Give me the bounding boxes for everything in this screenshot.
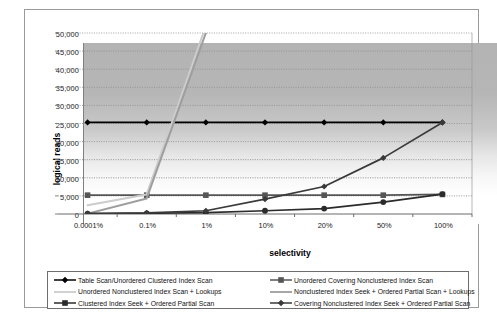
x-axis-title: selectivity: [83, 248, 497, 258]
legend-item-label: Unordered Nonclustered Index Scan + Look…: [78, 288, 221, 295]
legend-item[interactable]: Covering Nonclustered Index Seek + Order…: [266, 298, 470, 308]
y-axis-tick-label: 40,000: [56, 66, 79, 75]
legend-item[interactable]: Unordered Nonclustered Index Scan + Look…: [50, 287, 221, 297]
legend-row: Clustered Index Seek + Ordered Partial S…: [48, 298, 468, 310]
legend-key-icon: [270, 275, 292, 285]
x-axis-tick-label: 0.1%: [139, 221, 156, 230]
y-axis-tick-label: 0: [75, 211, 79, 220]
y-axis-tick-label: 5,000: [60, 192, 79, 201]
legend-key-icon: [54, 298, 76, 308]
legend-item-label: Clustered Index Seek + Ordered Partial S…: [78, 300, 214, 307]
y-axis-tick-label: 25,000: [56, 120, 79, 129]
plot-area: [83, 43, 497, 224]
legend-row: Unordered Nonclustered Index Scan + Look…: [48, 287, 468, 299]
legend-key-icon: [54, 287, 76, 297]
x-axis-tick-label: 50%: [377, 221, 392, 230]
y-axis-tick-label: 50,000: [56, 30, 79, 39]
legend-key-icon: [54, 275, 76, 285]
legend-item[interactable]: Clustered Index Seek + Ordered Partial S…: [50, 298, 214, 308]
legend-row: Table Scan/Unordered Clustered Index Sca…: [48, 275, 468, 287]
chart-legend: Table Scan/Unordered Clustered Index Sca…: [47, 271, 469, 309]
legend-item[interactable]: Unordered Covering Nonclustered Index Sc…: [266, 275, 433, 285]
y-axis-tick-label: 35,000: [56, 84, 79, 93]
legend-item-label: Unordered Covering Nonclustered Index Sc…: [294, 277, 433, 284]
y-axis-tick-label: 30,000: [56, 102, 79, 111]
chart-frame: 05,00010,00015,00020,00025,00030,00035,0…: [24, 9, 479, 308]
x-axis-tick-label: 10%: [259, 221, 274, 230]
x-axis-tick-label: 0.0001%: [74, 221, 103, 230]
legend-item[interactable]: Table Scan/Unordered Clustered Index Sca…: [50, 275, 213, 285]
x-axis-tick-label: 100%: [434, 221, 453, 230]
legend-item-label: Table Scan/Unordered Clustered Index Sca…: [78, 277, 213, 284]
x-axis-tick-label: 1%: [202, 221, 213, 230]
legend-item-label: Covering Nonclustered Index Seek + Order…: [294, 300, 470, 307]
legend-item[interactable]: Nonclustered Index Seek + Ordered Partia…: [266, 287, 475, 297]
x-axis-tick-label: 20%: [318, 221, 333, 230]
legend-key-icon: [270, 287, 292, 297]
legend-item-label: Nonclustered Index Seek + Ordered Partia…: [294, 288, 475, 295]
y-axis-title: logical reads: [52, 132, 62, 185]
legend-key-icon: [270, 298, 292, 308]
y-axis-tick-label: 45,000: [56, 48, 79, 57]
